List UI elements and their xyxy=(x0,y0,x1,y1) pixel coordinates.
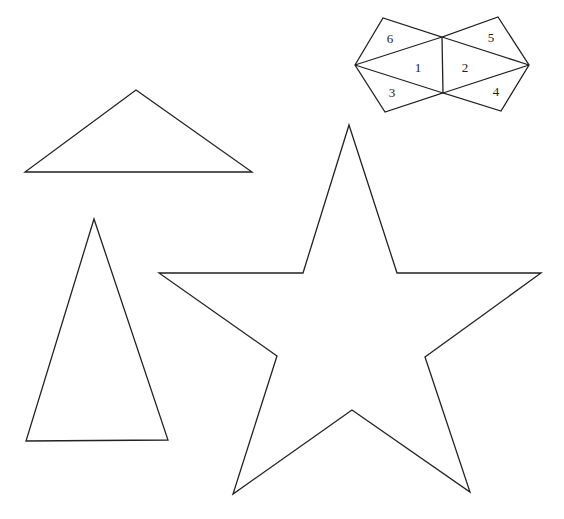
five-point-star xyxy=(159,125,541,494)
dissection-line xyxy=(442,37,443,93)
diagram-canvas: 6 1 3 2 5 4 xyxy=(0,0,564,519)
piece-label-6: 6 xyxy=(387,31,394,46)
dissection-line xyxy=(442,37,529,65)
piece-label-4: 4 xyxy=(493,84,500,99)
piece-label-3: 3 xyxy=(389,85,396,100)
dissection-line xyxy=(355,65,443,93)
dissection-line xyxy=(443,65,529,93)
wide-triangle xyxy=(25,90,252,172)
dissected-hexagon: 6 1 3 2 5 4 xyxy=(355,17,529,112)
dissection-line xyxy=(355,37,442,65)
piece-label-5: 5 xyxy=(488,30,495,45)
piece-label-1: 1 xyxy=(415,60,422,75)
piece-label-2: 2 xyxy=(462,60,469,75)
tall-triangle xyxy=(26,219,168,441)
